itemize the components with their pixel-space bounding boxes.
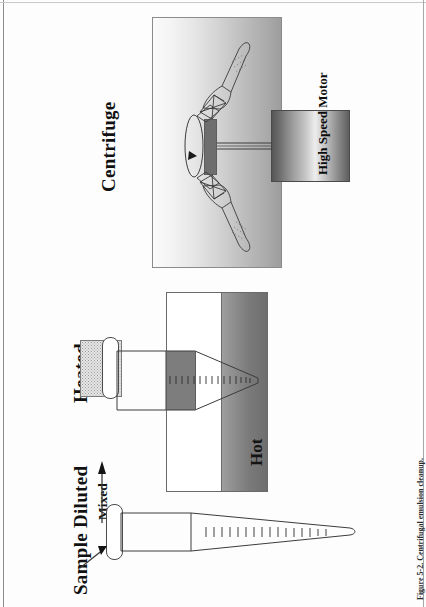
figure-page: Centrifuge High Speed Motor bbox=[0, 0, 426, 607]
figure-caption: Figure 5-2. Centrifugal emulsion cleanup… bbox=[416, 458, 425, 600]
sample-graduation-ticks bbox=[0, 0, 426, 607]
